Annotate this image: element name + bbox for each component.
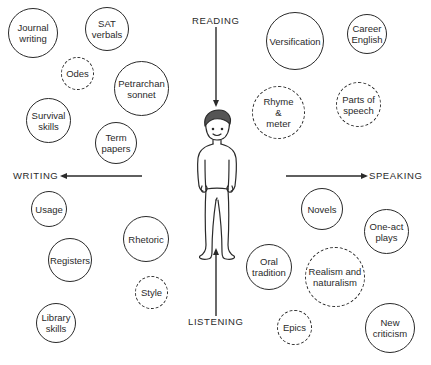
topic-bubble-new-criticism: New criticism: [365, 303, 415, 353]
listening-arrow: [213, 248, 219, 316]
topic-bubble-one-act-plays: One-act plays: [364, 209, 409, 254]
writing-arrow: [60, 173, 142, 179]
topic-bubble-library-skills: Library skills: [36, 303, 76, 343]
topic-bubble-odes: Odes: [61, 57, 94, 90]
topic-bubble-journal-writing: Journal writing: [8, 8, 58, 58]
student-figure-icon: [198, 110, 237, 259]
topic-bubble-rhetoric: Rhetoric: [123, 216, 169, 262]
reading-arrow: [213, 27, 219, 107]
topic-bubble-registers: Registers: [48, 238, 92, 282]
topic-bubble-petrarchan-sonnet: Petrarchan sonnet: [114, 61, 169, 116]
skill-label-reading: READING: [192, 15, 239, 26]
skill-label-speaking: SPEAKING: [369, 170, 422, 181]
speaking-arrow: [286, 173, 368, 179]
topic-bubble-rhyme-and-meter: Rhyme & meter: [252, 86, 305, 139]
topic-bubble-career-english: Career English: [347, 14, 387, 54]
topic-bubble-usage: Usage: [31, 191, 67, 227]
topic-bubble-oral-tradition: Oral tradition: [246, 244, 292, 290]
topic-bubble-sat-verbals: SAT verbals: [85, 7, 129, 51]
topic-bubble-epics: Epics: [277, 310, 312, 345]
topic-bubble-style: Style: [135, 276, 168, 309]
skill-label-writing: WRITING: [13, 170, 58, 181]
topic-bubble-parts-of-speech: Parts of speech: [336, 82, 381, 127]
topic-bubble-versification: Versification: [266, 12, 324, 70]
topic-bubble-survival-skills: Survival skills: [26, 98, 71, 143]
topic-bubble-realism-and-naturalism: Realism and naturalism: [305, 247, 365, 307]
topic-bubble-novels: Novels: [301, 188, 343, 230]
topic-bubble-term-papers: Term papers: [95, 122, 137, 164]
skill-label-listening: LISTENING: [188, 316, 244, 327]
